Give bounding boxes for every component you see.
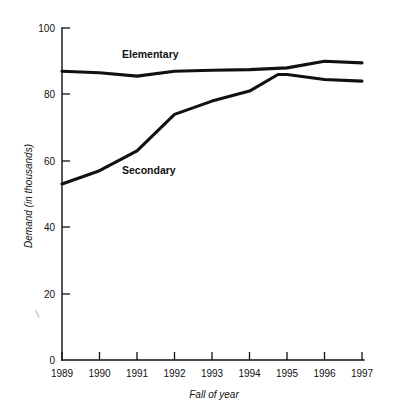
x-tick-label-1993: 1993 [201,368,224,379]
y-tick-label-60: 60 [44,156,56,167]
y-axis-tick-labels: 100 80 60 40 20 0 [38,23,55,366]
x-tick-label-1992: 1992 [163,368,186,379]
x-tick-label-1997: 1997 [351,368,374,379]
x-axis-tick-labels: 1989 1990 1991 1992 1993 1994 1995 1996 … [51,368,374,379]
series-label-elementary: Elementary [122,48,179,60]
x-axis-title: Fall of year [189,389,239,400]
x-tick-label-1991: 1991 [126,368,149,379]
chart-canvas: 100 80 60 40 20 0 1989 1990 1991 1992 19… [0,0,393,420]
x-axis-ticks [62,352,362,360]
chart-figure: 100 80 60 40 20 0 1989 1990 1991 1992 19… [0,0,393,420]
x-tick-label-1995: 1995 [276,368,299,379]
y-tick-label-80: 80 [44,89,56,100]
series-label-secondary: Secondary [122,164,176,176]
y-axis-ticks [62,28,70,294]
x-tick-label-1989: 1989 [51,368,74,379]
y-tick-label-100: 100 [38,23,55,34]
series-lines [62,61,362,184]
x-tick-label-1994: 1994 [238,368,261,379]
x-tick-label-1996: 1996 [313,368,336,379]
y-tick-label-40: 40 [44,222,56,233]
scan-speck [35,310,40,318]
series-annotations: Elementary Secondary [122,48,179,176]
series-line-elementary [62,61,362,76]
y-tick-label-20: 20 [44,289,56,300]
series-line-secondary [62,75,362,185]
x-tick-label-1990: 1990 [88,368,111,379]
y-tick-label-0: 0 [49,355,55,366]
y-axis-title: Demand (in thousands) [23,144,34,248]
